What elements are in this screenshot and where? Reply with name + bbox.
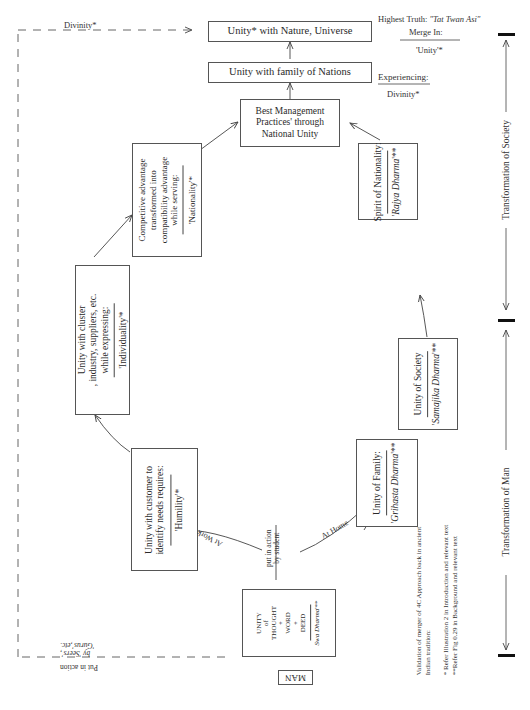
- cluster-value: 'Individuality'*: [117, 294, 128, 387]
- cluster-line-2: , industry, suppliers, etc.: [88, 294, 99, 387]
- cluster-line-3: while expressing:: [99, 294, 110, 387]
- label-seers-line-1: Put in action: [60, 662, 98, 671]
- axis-label-society: Transformation of Society: [501, 117, 511, 223]
- node-best-management: Best Management Practices' through Natio…: [240, 99, 340, 147]
- node-spirit-nationality: Spirit of Nationality: 'Rajya Dharma'**: [358, 143, 418, 220]
- customer-line-1: Unity with customer to: [144, 465, 155, 554]
- node-unity-nations-label: Unity with family of Nations: [229, 66, 351, 78]
- note-merge-in: Merge In:: [409, 27, 443, 37]
- node-customer: Unity with customer to identify needs re…: [131, 448, 198, 571]
- arrow-customer-to-cluster: [95, 415, 130, 452]
- customer-line-2: identify needs requires:: [155, 465, 166, 554]
- society-rule: [428, 351, 429, 417]
- spirit-line-1: Spirit of Nationality:: [373, 142, 384, 221]
- node-cluster: Unity with cluster , industry, suppliers…: [75, 265, 130, 415]
- spirit-rule: [388, 150, 389, 213]
- note-unity: 'Unity'*: [416, 45, 443, 55]
- best-mgmt-line-3: National Unity: [262, 129, 319, 140]
- node-man: MAN: [278, 670, 313, 685]
- cluster-line-1: Unity with cluster: [76, 294, 87, 387]
- note-experiencing: Experiencing:: [378, 72, 428, 82]
- node-unity-nature: Unity* with Nature, Universe: [208, 21, 372, 42]
- label-at-work: At Work: [195, 528, 224, 548]
- node-competitive-advantage: Competitive advantage transformed into c…: [132, 143, 202, 257]
- spirit-value: 'Rajya Dharma'**: [392, 142, 403, 221]
- axis-label-man: Transformation of Man: [501, 465, 511, 560]
- node-man-label: MAN: [285, 672, 306, 683]
- node-unity-family: Unity of Family: 'Grihasta Dharma'**: [356, 439, 418, 527]
- customer-rule: [170, 474, 171, 545]
- arrow-society-to-nationality: [420, 295, 427, 337]
- label-student: put in action by student: [265, 530, 282, 568]
- node-unity-nature-label: Unity* with Nature, Universe: [228, 25, 353, 37]
- competitive-line-1: Competitive advantage: [137, 157, 148, 244]
- label-student-line-2: by student: [273, 530, 281, 568]
- best-mgmt-line-1: Best Management: [256, 106, 325, 117]
- label-seers-line-3: 'Gurus',etc.: [60, 640, 98, 649]
- axis-bar-bottom: [498, 654, 515, 657]
- competitive-line-3: compatibility advantage: [158, 157, 169, 244]
- label-at-home: At Home: [320, 518, 350, 541]
- footnote-validation-2: Indian tradition:: [425, 525, 434, 675]
- competitive-value: 'Nationality'*: [187, 157, 198, 244]
- arrow-competitive-to-best: [200, 122, 238, 150]
- cluster-rule: [113, 303, 114, 377]
- axis-bar-top: [498, 33, 515, 36]
- label-divinity-top: Divinity*: [64, 20, 97, 30]
- family-line-1: Unity of Family:: [372, 443, 383, 524]
- competitive-line-4: while serving:: [169, 157, 180, 244]
- arrow-nationality-to-best: [350, 123, 380, 140]
- man-unity-rule: [311, 605, 312, 641]
- family-value: 'Grihasta Dharma'**: [391, 443, 402, 524]
- label-seers: Put in action by 'Seers', 'Gurus',etc.: [60, 640, 98, 671]
- family-rule: [387, 451, 388, 516]
- footnote-validation-1: Validation of merger of 4C Approach back…: [415, 525, 424, 675]
- diagram-canvas: Unity* with Nature, Universe Unity with …: [0, 0, 530, 710]
- node-unity-society: Unity of Society 'Samajika Dharma'**: [398, 338, 458, 430]
- arrow-cluster-to-competitive: [94, 215, 132, 257]
- footnote-1: * Refer Illustration 2 in Introduction a…: [442, 525, 451, 675]
- competitive-line-2: transformed into: [147, 157, 158, 244]
- man-unity-line-7: DEED: [300, 600, 307, 645]
- customer-value: 'Humility'*: [174, 465, 185, 554]
- footnote-2: **Refer Fig 0.29 in Background and relev…: [451, 525, 460, 675]
- note-divinity: Divinity*: [387, 89, 420, 99]
- competitive-rule: [183, 165, 184, 234]
- node-unity-nations: Unity with family of Nations: [208, 62, 372, 83]
- society-line-1: Unity of Society: [413, 343, 424, 425]
- node-man-unity: UNITY of THOUGHT + WORD + DEED Swa Dharm…: [242, 589, 336, 657]
- axis-bar-middle: [498, 319, 515, 322]
- footnotes: Validation of merger of 4C Approach back…: [415, 525, 461, 675]
- man-unity-value: Swa Dharma'**: [315, 600, 322, 645]
- society-value: 'Samajika Dharma'**: [432, 343, 443, 425]
- best-mgmt-line-2: Practices' through: [256, 117, 324, 128]
- note-highest-truth: Highest Truth: "Tat Twan Asi": [378, 14, 480, 24]
- label-seers-line-2: by 'Seers',: [60, 649, 98, 658]
